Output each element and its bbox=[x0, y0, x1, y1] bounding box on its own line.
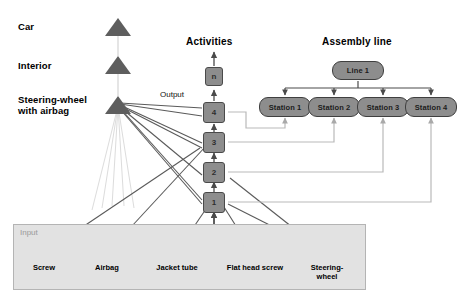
station-node-2[interactable]: Station 2 bbox=[308, 97, 360, 117]
input-panel-label: Input bbox=[20, 228, 38, 237]
activity-node-1[interactable]: 1 bbox=[203, 192, 225, 213]
activity-node-3[interactable]: 3 bbox=[203, 132, 225, 153]
input-item-label-steering-wheel: Steering- wheel bbox=[300, 264, 354, 281]
station-node-4[interactable]: Station 4 bbox=[405, 97, 457, 117]
diagram-canvas: Car Interior Steering-wheel with airbag … bbox=[0, 0, 469, 306]
input-item-label-airbag: Airbag bbox=[77, 264, 137, 273]
triangle-icon-steering-wheel-with-airbag bbox=[105, 96, 131, 114]
station-node-1[interactable]: Station 1 bbox=[259, 97, 311, 117]
assembly-line-node[interactable]: Line 1 bbox=[332, 61, 384, 80]
input-item-label-screw: Screw bbox=[14, 264, 74, 273]
section-title-activities: Activities bbox=[186, 36, 232, 48]
station-node-3[interactable]: Station 3 bbox=[357, 97, 409, 117]
triangle-icon-interior bbox=[105, 56, 131, 74]
input-item-label-flat-head-screw: Flat head screw bbox=[213, 264, 297, 273]
hierarchy-label-interior: Interior bbox=[18, 61, 52, 72]
hierarchy-label-car: Car bbox=[18, 22, 34, 33]
section-title-assembly-line: Assembly line bbox=[322, 36, 392, 48]
output-label: Output bbox=[160, 90, 184, 99]
triangle-icon-car bbox=[105, 18, 131, 36]
activity-node-2[interactable]: 2 bbox=[203, 162, 225, 183]
input-item-label-jacket-tube: Jacket tube bbox=[143, 264, 211, 273]
activity-node-n[interactable]: n bbox=[205, 67, 223, 86]
activity-node-4[interactable]: 4 bbox=[203, 102, 225, 123]
hierarchy-label-steering-wheel-with-airbag: Steering-wheel with airbag bbox=[18, 95, 87, 117]
